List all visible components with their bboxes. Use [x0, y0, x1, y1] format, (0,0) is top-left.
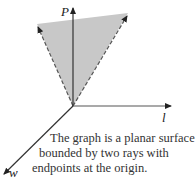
- p-axis-label: P: [60, 4, 69, 19]
- w-axis-label: w: [9, 165, 18, 179]
- planar-surface: [37, 13, 128, 106]
- caption-line-2: bounded by two rays with: [30, 146, 196, 161]
- l-axis-label: l: [162, 110, 166, 125]
- caption-line-3: endpoints at the origin.: [30, 161, 196, 176]
- caption-line-1: The graph is a planar surface: [30, 131, 196, 146]
- caption: The graph is a planar surface bounded by…: [30, 131, 196, 176]
